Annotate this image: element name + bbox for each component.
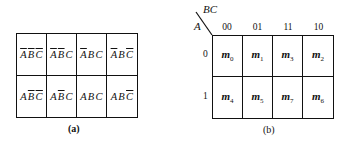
minterm-index-cell: m7 [273, 77, 303, 118]
minterm-index-cell: m0 [213, 36, 243, 77]
row-header: 0 [203, 49, 208, 59]
minterm-index-cell: m3 [273, 36, 303, 77]
minterm-index-cell: m5 [243, 77, 273, 118]
minterm-index-cell: m1 [243, 36, 273, 77]
minterm-index-cell: m2 [303, 36, 333, 77]
row-header: 1 [203, 91, 208, 101]
column-header: 01 [243, 22, 273, 32]
column-header: 11 [273, 22, 303, 32]
column-header: 10 [304, 22, 334, 32]
minterm-index-cell: m6 [303, 77, 333, 118]
column-variable-label: BC [203, 3, 217, 15]
kmap-minterm-grid: m0m1m3m2m4m5m7m6 [212, 35, 334, 119]
row-variable-label: A [194, 20, 201, 32]
column-header: 00 [212, 22, 242, 32]
minterm-index-cell: m4 [213, 77, 243, 118]
caption-b: (b) [263, 124, 275, 135]
